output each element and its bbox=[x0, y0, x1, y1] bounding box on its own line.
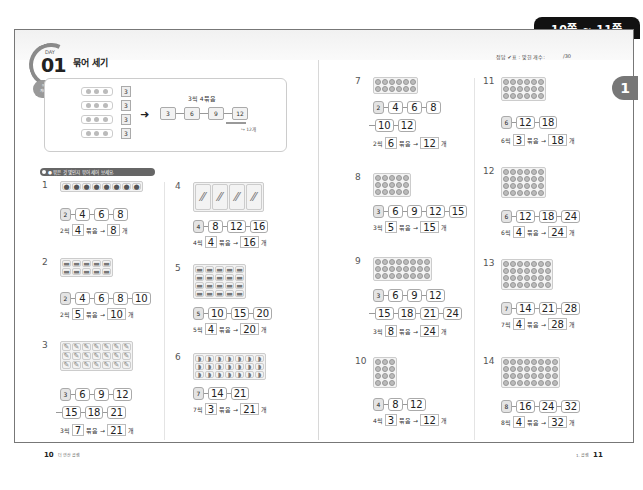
answer-box: 32 bbox=[561, 400, 580, 413]
example-box: 3 3 3 3 ➜ 3씩 4묶음 3 6 9 12 ↪ 12개 bbox=[44, 78, 287, 152]
groups-box: 5 bbox=[385, 221, 397, 233]
answer-box: 24 bbox=[443, 307, 462, 320]
answer-box: 5 bbox=[193, 307, 204, 320]
answer-sentence: 2씩6묶음 →12개 bbox=[373, 137, 447, 149]
answer-box: 3 bbox=[60, 388, 71, 401]
book-title: 더 연산 곱셈 bbox=[58, 452, 81, 458]
problem-number: 7 bbox=[355, 76, 361, 86]
skip-count-chain: 151821 bbox=[56, 406, 126, 419]
groups-box: 5 bbox=[72, 308, 84, 320]
skip-count-chain: 481216 bbox=[193, 220, 268, 233]
answer-box: 18 bbox=[539, 116, 558, 129]
answer-box: 16 bbox=[250, 220, 269, 233]
answer-box: 18 bbox=[539, 210, 558, 223]
answer-sentence: 4씩3묶음 →12개 bbox=[373, 414, 447, 426]
answer-box: 12 bbox=[516, 116, 535, 129]
total-box: 12 bbox=[420, 414, 439, 426]
score-total: /30 bbox=[563, 53, 571, 60]
answer-box: 20 bbox=[253, 307, 272, 320]
answer-box: 6 bbox=[388, 289, 403, 302]
answer-box: 14 bbox=[208, 387, 227, 400]
chapter-title: 1. 곱셈 bbox=[576, 452, 589, 458]
answer-box: 8 bbox=[426, 101, 441, 114]
chain-box: 6 bbox=[184, 107, 200, 120]
answer-box: 12 bbox=[113, 388, 132, 401]
score-label: 정답 ✔표 : 맞힌 개수: bbox=[496, 53, 545, 60]
answer-sentence: 5씩4묶음 →20개 bbox=[193, 323, 267, 335]
answer-box: 12 bbox=[407, 398, 426, 411]
problem-number: 1 bbox=[42, 180, 48, 190]
group-count: 3 bbox=[121, 114, 131, 125]
answer-box: 18 bbox=[398, 307, 417, 320]
answer-box: 12 bbox=[516, 210, 535, 223]
skip-count-chain: 5101520 bbox=[193, 307, 272, 320]
answer-sentence: 2씩4묶음 →8개 bbox=[60, 224, 128, 236]
pencil-picture: ✎✎✎✎✎✎✎✎✎✎✎✎✎✎✎✎✎✎✎✎✎ bbox=[60, 341, 133, 371]
total-box: 32 bbox=[548, 416, 567, 428]
counters-picture bbox=[373, 357, 397, 388]
total-box: 20 bbox=[240, 323, 259, 335]
example-group: 3 bbox=[81, 86, 131, 97]
problem-number: 3 bbox=[42, 340, 48, 350]
column-divider bbox=[164, 182, 165, 440]
cup-picture: ◗◗◗◗◗◗◗◗◗◗◗◗◗◗◗◗◗◗◗◗◗ bbox=[193, 353, 266, 380]
counters-picture bbox=[501, 357, 560, 388]
answer-box: 6 bbox=[75, 388, 90, 401]
page-number: 10 bbox=[44, 451, 54, 459]
example-group: 3 bbox=[81, 128, 131, 139]
group-count: 3 bbox=[121, 86, 131, 97]
underline bbox=[226, 122, 246, 124]
answer-box: 6 bbox=[94, 292, 109, 305]
result-note: ↪ 12개 bbox=[241, 126, 256, 132]
groups-box: 6 bbox=[385, 137, 397, 149]
answer-box: 9 bbox=[407, 289, 422, 302]
groups-box: 7 bbox=[72, 424, 84, 436]
answer-box: 8 bbox=[501, 400, 512, 413]
answer-sentence: 3씩5묶음 →15개 bbox=[373, 221, 447, 233]
counters-picture bbox=[373, 257, 432, 281]
footer-left: 10 더 연산 곱셈 bbox=[44, 451, 80, 459]
groups-box: 3 bbox=[513, 134, 525, 146]
groups-box: 8 bbox=[385, 325, 397, 337]
counters-picture bbox=[501, 259, 553, 290]
problem-number: 4 bbox=[175, 181, 181, 191]
skip-count-chain: 4812 bbox=[373, 398, 426, 411]
answer-sentence: 8씩4묶음 →32개 bbox=[501, 416, 575, 428]
arrow-right-icon: ➜ bbox=[140, 108, 149, 121]
answer-box: 3 bbox=[373, 289, 384, 302]
answer-box: 18 bbox=[85, 406, 104, 419]
answer-box: 6 bbox=[501, 116, 512, 129]
answer-box: 6 bbox=[94, 208, 109, 221]
answer-box: 7 bbox=[501, 302, 512, 315]
day-number: 01 bbox=[41, 54, 65, 76]
pen4-picture: ⁄⁄⁄⁄⁄⁄⁄⁄ bbox=[193, 182, 264, 212]
apple-picture: ●●●●●●●● bbox=[60, 181, 143, 192]
groups-box: 4 bbox=[205, 323, 217, 335]
groups-box: 4 bbox=[513, 416, 525, 428]
groups-box: 3 bbox=[385, 414, 397, 426]
answer-box: 14 bbox=[516, 302, 535, 315]
problem-number: 5 bbox=[175, 263, 181, 273]
skip-count-chain: 2468 bbox=[60, 208, 128, 221]
skip-count-chain: 8162432 bbox=[501, 400, 580, 413]
chain-box: 9 bbox=[208, 107, 224, 120]
skip-count-chain: 36912 bbox=[60, 388, 132, 401]
page-number: 11 bbox=[593, 451, 603, 459]
lesson-title: 묶어 세기 bbox=[73, 56, 108, 69]
answer-box: 12 bbox=[398, 119, 417, 132]
groups-box: 3 bbox=[205, 403, 217, 415]
skip-count-chain: 36912 bbox=[373, 289, 445, 302]
answer-box: 9 bbox=[407, 205, 422, 218]
groups-box: 4 bbox=[205, 236, 217, 248]
answer-box: 10 bbox=[208, 307, 227, 320]
example-group: 3 bbox=[81, 100, 131, 111]
answer-box: 24 bbox=[539, 400, 558, 413]
dots-icon bbox=[81, 87, 113, 96]
answer-box: 7 bbox=[193, 387, 204, 400]
problem-number: 14 bbox=[483, 356, 494, 366]
skip-count-chain: 1012 bbox=[369, 119, 416, 132]
skip-count-chain: 2468 bbox=[373, 101, 441, 114]
answer-box: 4 bbox=[75, 208, 90, 221]
answer-box: 9 bbox=[94, 388, 109, 401]
answer-box: 4 bbox=[388, 101, 403, 114]
